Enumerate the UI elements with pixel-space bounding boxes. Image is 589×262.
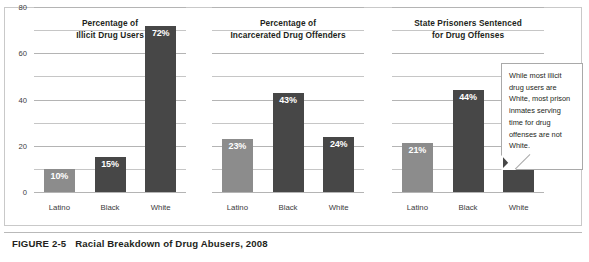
y-axis-tick-40: 40 [5, 95, 27, 104]
x-axis-label-white-2: White [309, 203, 369, 212]
bar-black-1: 15% [95, 157, 126, 192]
x-axis-label-white-3: White [489, 203, 549, 212]
bar-value-label: 72% [145, 28, 176, 38]
gridline-0 [34, 192, 186, 193]
figure-caption-text: Racial Breakdown of Drug Abusers, 2008 [75, 238, 267, 249]
y-axis-tick-80: 80 [5, 3, 27, 12]
figure-root: 806040200 Percentage of Illicit Drug Use… [0, 0, 589, 262]
bar-value-label: 24% [323, 139, 354, 149]
bar-value-label: 15% [95, 159, 126, 169]
bars-1: 10%15%72% [34, 7, 186, 192]
chart-panel-2: Percentage of Incarcerated Drug Offender… [212, 7, 364, 226]
bar-black-2: 43% [273, 93, 304, 192]
plot-area-2: 23%43%24% [212, 7, 364, 192]
bar-latino-2: 23% [222, 139, 253, 192]
bars-2: 23%43%24% [212, 7, 364, 192]
bar-value-label: 23% [222, 141, 253, 151]
bar-white-1: 72% [145, 26, 176, 193]
gridline-0 [212, 192, 364, 193]
y-axis-tick-20: 20 [5, 141, 27, 150]
x-axis-label-white-1: White [131, 203, 191, 212]
chart-panel-1: Percentage of Illicit Drug Users10%15%72… [34, 7, 186, 226]
figure-number: FIGURE 2-5 [12, 238, 66, 249]
callout-tail-icon [501, 155, 516, 170]
plot-area-1: 10%15%72% [34, 7, 186, 192]
figure-caption: FIGURE 2-5Racial Breakdown of Drug Abuse… [12, 238, 268, 249]
gridline-0 [392, 192, 544, 193]
bar-white-2: 24% [323, 137, 354, 193]
bar-black-3: 44% [453, 90, 484, 192]
caption-divider [4, 232, 582, 233]
bar-value-label: 44% [453, 92, 484, 102]
bar-latino-1: 10% [44, 169, 75, 192]
bar-value-label: 43% [273, 95, 304, 105]
bar-value-label: 10% [44, 171, 75, 181]
bar-latino-3: 21% [402, 143, 433, 192]
callout-text: While most illicit drug users are White,… [509, 71, 570, 150]
bar-value-label: 21% [402, 145, 433, 155]
y-axis-tick-0: 0 [5, 188, 27, 197]
y-axis-tick-60: 60 [5, 49, 27, 58]
